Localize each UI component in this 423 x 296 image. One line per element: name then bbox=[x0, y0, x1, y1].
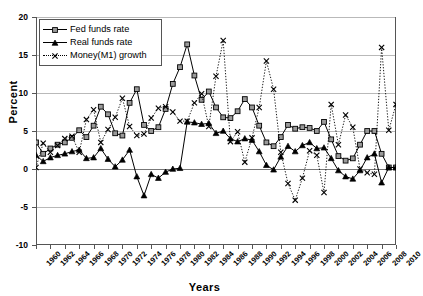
legend-item-fed-funds-rate[interactable]: Fed funds rate bbox=[43, 23, 157, 36]
legend-label: Fed funds rate bbox=[70, 25, 129, 34]
legend-item-real-funds-rate[interactable]: Real funds rate bbox=[43, 36, 157, 49]
legend-label: Real funds rate bbox=[70, 38, 132, 47]
legend: Fed funds rateReal funds rateMoney(M1) g… bbox=[39, 19, 162, 66]
legend-marker-triangle-icon bbox=[43, 37, 67, 48]
legend-label: Money(M1) growth bbox=[70, 51, 147, 60]
legend-marker-cross-icon bbox=[43, 50, 67, 61]
legend-item-money-m1-growth[interactable]: Money(M1) growth bbox=[43, 49, 157, 62]
legend-marker-square-icon bbox=[43, 24, 67, 35]
